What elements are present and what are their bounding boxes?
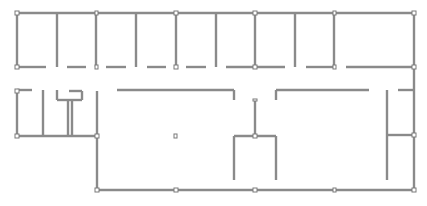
floor-plan [0, 0, 427, 206]
open-area [97, 90, 414, 190]
top-office-row [17, 13, 415, 190]
restroom-block [17, 90, 97, 190]
